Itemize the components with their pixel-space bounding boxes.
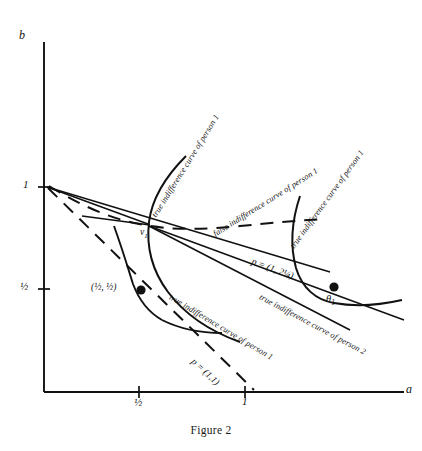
x-tick-label-half: ½: [134, 397, 142, 408]
point-label-v1: v1: [140, 228, 148, 240]
point-label-theta1: θ1: [326, 294, 335, 307]
y-tick-label-half: ½: [20, 281, 28, 292]
x-axis-label: a: [406, 383, 412, 395]
figure-caption: Figure 2: [0, 424, 422, 436]
point-label-theta1-subscript: 1: [331, 298, 335, 307]
point-theta1-marker: [329, 282, 338, 291]
true-indifference-line-person-2: [149, 226, 350, 330]
true-indifference-curve-person-1-right: [293, 196, 402, 305]
point-label-v1-subscript: 1: [144, 232, 147, 239]
ray-long-right: [47, 187, 330, 272]
point-label-half-half: (½, ½): [91, 283, 116, 293]
y-axis-label: b: [19, 29, 25, 41]
x-tick-label-1: 1: [242, 396, 248, 407]
y-tick-label-1: 1: [23, 179, 29, 190]
point-half-half-marker: [136, 285, 145, 294]
figure-2-panel: b a 1 ½ ½ 1 v1 θ1 (½, ½) p = (1, 2¼) p =…: [0, 0, 422, 451]
solid-price-rays: [47, 187, 330, 272]
